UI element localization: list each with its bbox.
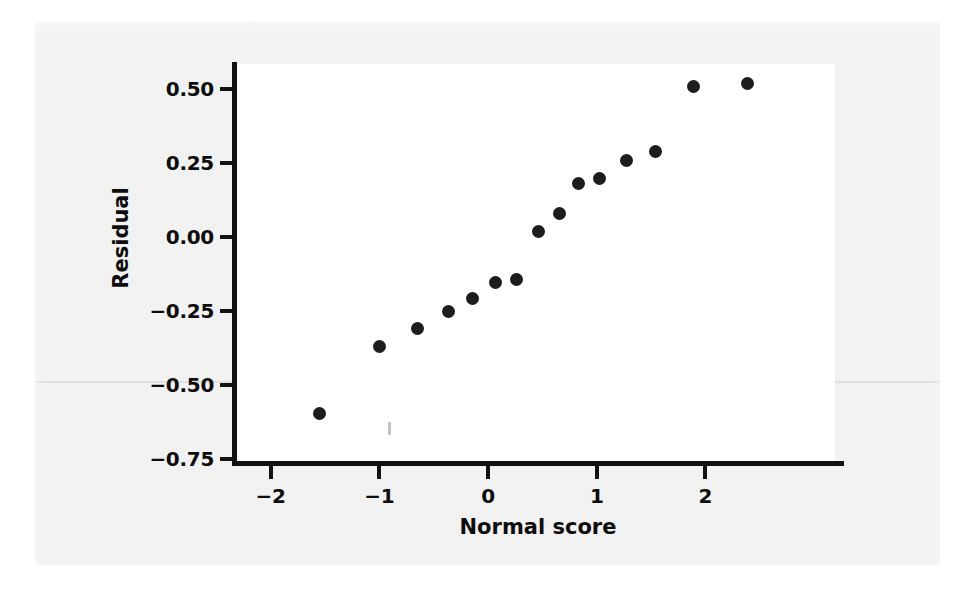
x-axis-title: Normal score xyxy=(460,515,617,539)
data-point xyxy=(532,225,545,238)
y-axis-tick-mark xyxy=(220,309,233,313)
x-axis-tick-mark xyxy=(486,466,490,479)
x-axis-tick-mark xyxy=(703,466,707,479)
data-point xyxy=(313,407,326,420)
x-axis-tick-label: 1 xyxy=(590,484,604,508)
plot-area xyxy=(232,64,835,465)
x-axis-tick-label: −1 xyxy=(364,484,394,508)
data-point xyxy=(687,80,700,93)
data-point xyxy=(572,177,585,190)
data-point xyxy=(553,207,566,220)
x-axis-tick-label: 0 xyxy=(481,484,495,508)
x-axis-tick-mark xyxy=(377,466,381,479)
data-point xyxy=(411,322,424,335)
data-point xyxy=(741,77,754,90)
data-point xyxy=(489,276,502,289)
y-axis-line xyxy=(232,62,237,466)
y-axis-tick-label: 0.00 xyxy=(166,225,214,249)
scan-speck-artifact xyxy=(388,422,391,435)
data-point xyxy=(466,292,479,305)
data-point xyxy=(510,273,523,286)
y-axis-tick-mark xyxy=(220,87,233,91)
y-axis-tick-mark xyxy=(220,457,233,461)
y-axis-tick-mark xyxy=(220,383,233,387)
x-axis-tick-mark xyxy=(595,466,599,479)
figure-root: 0.500.250.00−0.25−0.50−0.75 −2−1012 Resi… xyxy=(0,0,976,596)
x-axis-tick-label: 2 xyxy=(699,484,713,508)
x-axis-line xyxy=(232,461,844,466)
y-axis-tick-label: 0.25 xyxy=(166,151,214,175)
data-point xyxy=(373,340,386,353)
y-axis-title: Residual xyxy=(109,187,133,288)
y-axis-tick-label: −0.50 xyxy=(149,373,214,397)
data-point xyxy=(620,154,633,167)
x-axis-tick-label: −2 xyxy=(256,484,286,508)
x-axis-tick-mark xyxy=(269,466,273,479)
data-point xyxy=(649,145,662,158)
y-axis-tick-mark xyxy=(220,235,233,239)
y-axis-tick-label: −0.25 xyxy=(149,299,214,323)
y-axis-tick-label: 0.50 xyxy=(166,77,214,101)
data-point xyxy=(593,172,606,185)
y-axis-tick-label: −0.75 xyxy=(149,447,214,471)
data-point xyxy=(442,305,455,318)
y-axis-tick-mark xyxy=(220,161,233,165)
